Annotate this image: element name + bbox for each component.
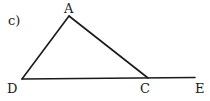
point-label-A: A	[63, 1, 74, 16]
point-label-D: D	[7, 81, 17, 96]
point-label-E: E	[195, 81, 205, 96]
segment-AC	[69, 16, 148, 78]
geometry-figure: c) A D C E	[0, 0, 210, 101]
part-label: c)	[8, 13, 20, 28]
segment-DA	[22, 16, 69, 79]
point-label-C: C	[140, 81, 150, 96]
segment-DE	[22, 78, 195, 80]
